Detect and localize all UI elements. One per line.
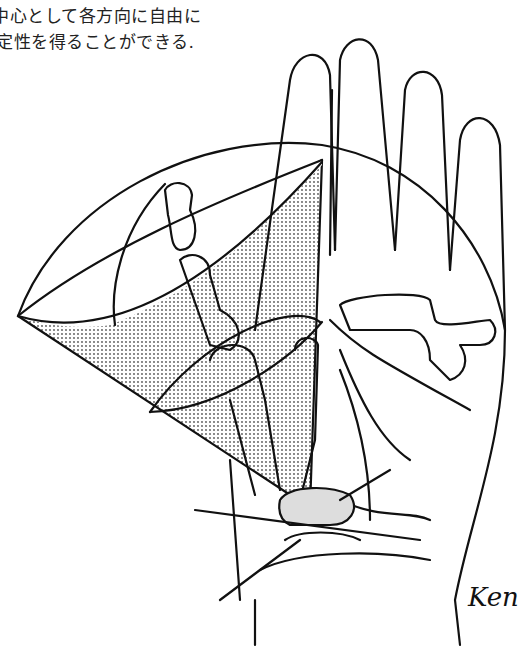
artist-signature: Ken: [468, 582, 519, 612]
axis-line-2: [340, 470, 390, 500]
middle-finger: [335, 39, 395, 250]
hand-illustration: [0, 0, 527, 647]
wrist: [230, 460, 430, 600]
axis-line-3: [220, 540, 300, 600]
ring-finger: [395, 72, 450, 270]
little-finger: [450, 118, 505, 600]
